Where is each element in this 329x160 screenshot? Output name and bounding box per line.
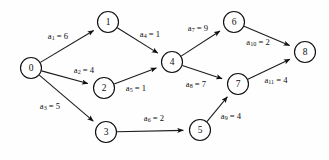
graph-edge-a3 (39, 75, 93, 121)
node-label-2: 2 (102, 83, 107, 93)
graph-figure: 012345678 a1 = 6a2 = 4a3 = 5a4 = 1a5 = 1… (0, 0, 329, 160)
graph-edge-a7 (181, 31, 220, 56)
graph-edge-a6 (117, 130, 183, 131)
graph-edge-a8 (182, 65, 222, 78)
graph-node-0[interactable]: 0 (21, 58, 42, 79)
graph-node-2[interactable]: 2 (94, 78, 115, 99)
edge-label-a11: a11 = 4 (264, 75, 288, 86)
graph-node-8[interactable]: 8 (295, 42, 316, 63)
edge-label-a10: a10 = 2 (246, 37, 269, 48)
graph-node-5[interactable]: 5 (190, 120, 211, 141)
node-label-0: 0 (29, 63, 34, 73)
graph-canvas: 012345678 a1 = 6a2 = 4a3 = 5a4 = 1a5 = 1… (0, 0, 329, 160)
node-label-5: 5 (198, 125, 203, 135)
node-label-1: 1 (106, 17, 111, 27)
graph-node-1[interactable]: 1 (98, 12, 119, 33)
edge-label-a2: a2 = 4 (74, 65, 95, 76)
graph-edge-a5 (114, 68, 156, 84)
edge-label-a6: a6 = 2 (144, 113, 164, 124)
graph-node-3[interactable]: 3 (96, 122, 117, 143)
node-label-8: 8 (303, 47, 308, 57)
edge-label-a3: a3 = 5 (40, 101, 60, 112)
edge-label-a7: a7 = 9 (188, 23, 208, 34)
graph-node-4[interactable]: 4 (162, 52, 183, 73)
edge-label-a9: a9 = 4 (221, 111, 242, 122)
edge-label-a5: a5 = 1 (126, 83, 146, 94)
node-label-6: 6 (232, 17, 237, 27)
graph-node-7[interactable]: 7 (228, 74, 249, 95)
node-label-4: 4 (170, 57, 175, 67)
graph-node-6[interactable]: 6 (224, 12, 245, 33)
edge-label-a1: a1 = 6 (48, 31, 69, 42)
edge-label-a8: a8 = 7 (186, 79, 207, 90)
node-label-7: 7 (236, 79, 241, 89)
edge-labels-layer: a1 = 6a2 = 4a3 = 5a4 = 1a5 = 1a6 = 2a7 =… (40, 23, 288, 124)
node-label-3: 3 (104, 127, 109, 137)
edge-label-a4: a4 = 1 (140, 29, 160, 40)
